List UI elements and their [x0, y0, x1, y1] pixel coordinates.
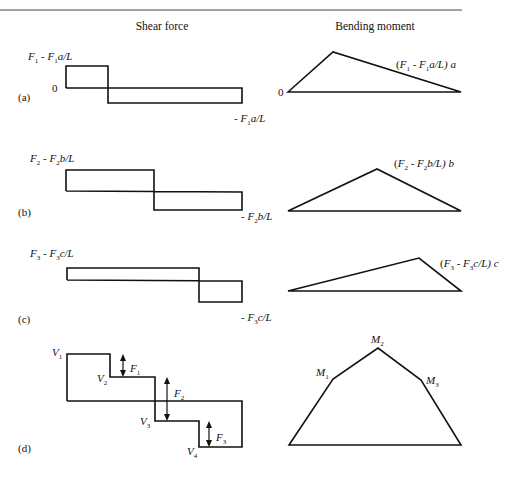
force-f2-label: F2 — [173, 387, 185, 402]
force-f3-label: F3 — [215, 431, 227, 446]
panel-a: (a) F1 - F1a/L 0 - F1a/L 0 (F1 - F1a/L) … — [18, 50, 461, 127]
panel-d-tag: (d) — [18, 442, 31, 455]
shear-b-bottom-label: - F2b/L — [241, 210, 272, 225]
shear-d-v4-label: V4 — [187, 445, 198, 460]
shear-c-diagram — [67, 268, 242, 302]
panel-b-tag: (b) — [18, 206, 31, 219]
shear-d-v1-label: V1 — [52, 346, 63, 361]
moment-a-zero-label: 0 — [278, 86, 284, 98]
force-f3-arrow-icon — [206, 421, 212, 447]
beam-diagrams-figure: Shear force Bending moment (a) F1 - F1a/… — [0, 0, 512, 480]
panel-d: (d) V1 V2 V3 V4 F1 F2 F3 M1 M2 — [18, 333, 461, 460]
moment-b-diagram — [288, 169, 461, 211]
shear-b-diagram — [66, 170, 242, 210]
force-f1-arrow-icon — [120, 354, 126, 377]
moment-d-m3-label: M3 — [425, 374, 439, 389]
bending-moment-header: Bending moment — [335, 20, 415, 33]
panel-a-tag: (a) — [18, 91, 31, 104]
shear-d-v3-label: V3 — [140, 415, 151, 430]
moment-d-diagram — [289, 348, 461, 445]
moment-d-m2-label: M2 — [370, 333, 384, 348]
shear-a-diagram — [66, 66, 242, 103]
shear-c-top-label: F3 - F3c/L — [29, 247, 74, 262]
shear-a-top-label: F1 - F1a/L — [27, 50, 72, 65]
shear-force-header: Shear force — [136, 20, 189, 32]
shear-a-zero-label: 0 — [52, 82, 58, 94]
panel-c-tag: (c) — [18, 313, 31, 326]
moment-a-peak-label: (F1 - F1a/L) a — [396, 58, 456, 73]
force-f1-label: F1 — [129, 362, 141, 377]
shear-d-v2-label: V2 — [97, 372, 108, 387]
moment-c-peak-label: (F3 - F3c/L) c — [440, 257, 499, 272]
moment-c-diagram — [288, 258, 461, 291]
force-f2-arrow-icon — [164, 377, 170, 421]
shear-a-bottom-label: - F1a/L — [234, 112, 265, 127]
panel-b: (b) F2 - F2b/L - F2b/L (F2 - F2b/L) b — [18, 152, 461, 225]
shear-c-bottom-label: - F3c/L — [241, 311, 272, 326]
moment-d-m1-label: M1 — [315, 366, 329, 381]
panel-c: (c) F3 - F3c/L - F3c/L (F3 - F3c/L) c — [18, 247, 499, 326]
shear-b-top-label: F2 - F2b/L — [29, 152, 74, 167]
moment-b-peak-label: (F2 - F2b/L) b — [394, 157, 454, 172]
